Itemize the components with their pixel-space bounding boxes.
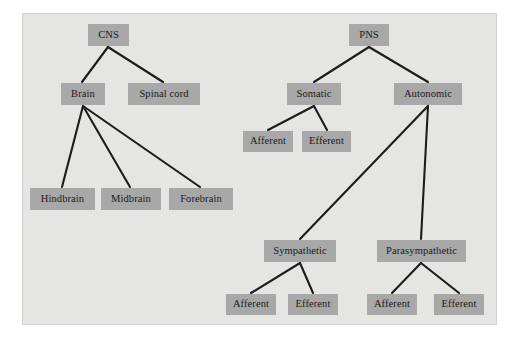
node-symp_afferent[interactable]: Afferent	[226, 294, 276, 315]
node-para_afferent[interactable]: Afferent	[367, 294, 417, 315]
diagram-canvas: CNSPNSBrainSpinal cordSomaticAutonomicAf…	[0, 0, 518, 338]
node-forebrain[interactable]: Forebrain	[169, 188, 233, 210]
node-spinal_cord[interactable]: Spinal cord	[128, 83, 200, 105]
node-som_efferent[interactable]: Efferent	[302, 131, 351, 152]
node-hindbrain[interactable]: Hindbrain	[30, 188, 95, 210]
node-midbrain[interactable]: Midbrain	[101, 188, 161, 210]
node-sympathetic[interactable]: Sympathetic	[264, 240, 336, 262]
node-somatic[interactable]: Somatic	[287, 83, 341, 105]
node-parasympathetic[interactable]: Parasympathetic	[377, 240, 466, 262]
diagram-panel	[22, 13, 497, 325]
node-brain[interactable]: Brain	[61, 83, 105, 105]
node-cns[interactable]: CNS	[88, 24, 129, 46]
node-symp_efferent[interactable]: Efferent	[288, 294, 338, 315]
node-autonomic[interactable]: Autonomic	[394, 83, 462, 105]
node-som_afferent[interactable]: Afferent	[243, 131, 293, 152]
node-pns[interactable]: PNS	[349, 24, 389, 46]
node-para_efferent[interactable]: Efferent	[434, 294, 484, 315]
